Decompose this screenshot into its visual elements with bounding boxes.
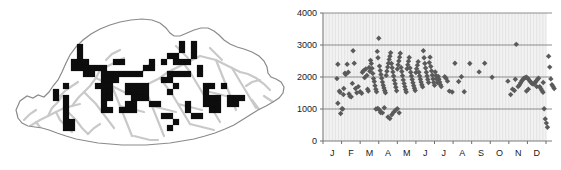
map-record-square	[107, 83, 113, 89]
y-axis-tick-labels: 01000200030004000	[297, 8, 317, 146]
map-record-square	[125, 71, 131, 77]
map-record-square	[143, 65, 149, 71]
map-record-square	[63, 125, 69, 131]
map-record-square	[227, 95, 233, 101]
map-record-square	[233, 101, 239, 107]
map-record-square	[119, 59, 125, 65]
map-record-square	[203, 83, 209, 89]
map-record-square	[131, 107, 137, 113]
altitude-scatter-svg: 01000200030004000 JFMAMJJASOND	[290, 0, 561, 170]
map-record-square	[197, 113, 203, 119]
map-record-square	[113, 59, 119, 65]
map-record-square	[101, 95, 107, 101]
map-record-square	[125, 101, 131, 107]
x-tick-label: D	[533, 148, 540, 158]
distribution-map-svg	[0, 0, 290, 170]
map-record-square	[191, 53, 197, 59]
map-record-square	[101, 71, 107, 77]
map-record-square	[167, 125, 173, 131]
map-record-square	[167, 113, 173, 119]
map-record-square	[173, 59, 179, 65]
map-record-square	[53, 89, 59, 95]
map-record-square	[143, 95, 149, 101]
y-tick-label: 1000	[297, 104, 317, 114]
x-tick-label: M	[366, 148, 374, 158]
map-record-square	[221, 83, 227, 89]
map-record-square	[203, 89, 209, 95]
map-record-square	[71, 59, 77, 65]
map-record-square	[137, 71, 143, 77]
map-record-square	[137, 95, 143, 101]
map-record-square	[239, 95, 245, 101]
map-record-square	[185, 107, 191, 113]
map-record-square	[215, 95, 221, 101]
map-record-square	[173, 71, 179, 77]
x-tick-label: A	[459, 148, 465, 158]
x-tick-label: A	[385, 148, 391, 158]
map-record-square	[63, 113, 69, 119]
map-record-square	[131, 89, 137, 95]
map-record-square	[107, 77, 113, 83]
map-record-square	[89, 65, 95, 71]
x-tick-label: M	[403, 148, 411, 158]
map-record-square	[101, 89, 107, 95]
map-record-square	[63, 83, 69, 89]
map-record-square	[179, 41, 185, 47]
map-record-square	[71, 65, 77, 71]
figure-container: 01000200030004000 JFMAMJJASOND	[0, 0, 561, 170]
map-record-square	[95, 83, 101, 89]
map-record-square	[89, 71, 95, 77]
map-record-square	[167, 89, 173, 95]
map-record-square	[185, 101, 191, 107]
map-record-square	[143, 89, 149, 95]
map-record-square	[107, 95, 113, 101]
distribution-map-panel	[0, 0, 290, 170]
y-tick-label: 3000	[297, 40, 317, 50]
map-record-square	[191, 113, 197, 119]
altitude-scatter-panel: 01000200030004000 JFMAMJJASOND	[290, 0, 561, 170]
map-record-square	[197, 71, 203, 77]
map-record-square	[191, 47, 197, 53]
map-record-square	[63, 95, 69, 101]
map-record-square	[107, 71, 113, 77]
map-record-square	[197, 65, 203, 71]
x-tick-label: J	[442, 148, 447, 158]
map-record-square	[101, 101, 107, 107]
map-record-square	[53, 95, 59, 101]
map-record-square	[209, 83, 215, 89]
scatter-marker	[547, 64, 552, 69]
map-record-square	[203, 95, 209, 101]
map-record-square	[77, 65, 83, 71]
x-axis-tick-labels: JFMAMJJASOND	[330, 148, 540, 158]
map-record-square	[185, 59, 191, 65]
x-tick-label: J	[330, 148, 335, 158]
map-record-square	[69, 125, 75, 131]
map-record-square	[95, 65, 101, 71]
map-record-square	[77, 44, 83, 50]
map-record-square	[173, 53, 179, 59]
map-record-square	[161, 77, 167, 83]
x-tick-label: S	[478, 148, 484, 158]
x-tick-label: N	[515, 148, 522, 158]
map-record-square	[179, 47, 185, 53]
map-record-square	[107, 89, 113, 95]
map-record-square	[63, 101, 69, 107]
map-record-square	[149, 101, 155, 107]
map-record-square	[119, 107, 125, 113]
map-record-square	[209, 95, 215, 101]
map-record-square	[209, 101, 215, 107]
map-record-square	[119, 71, 125, 77]
x-tick-label: J	[423, 148, 428, 158]
map-record-square	[113, 77, 119, 83]
map-record-square	[83, 59, 89, 65]
map-record-square	[203, 101, 209, 107]
map-record-square	[149, 65, 155, 71]
map-record-square	[215, 107, 221, 113]
map-record-square	[125, 83, 131, 89]
map-record-square	[137, 89, 143, 95]
map-record-square	[69, 119, 75, 125]
map-record-square	[191, 41, 197, 47]
map-record-square	[63, 119, 69, 125]
map-record-square	[167, 53, 173, 59]
map-record-square	[167, 77, 173, 83]
